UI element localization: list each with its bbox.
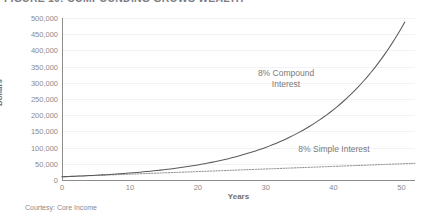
x-tick-label: 20 [194,183,202,192]
x-axis-title: Years [62,192,415,201]
x-tick-label: 10 [126,183,134,192]
annotation-compound-line2: Interest [238,79,334,90]
figure-credit: Courtesy: Core Income [25,204,97,211]
figure-container: FIGURE 10: COMPOUNDING GROWS WEALTH Doll… [0,0,425,218]
series-line-simple-interest [62,163,415,176]
x-tick-label: 0 [60,183,64,192]
x-tick-label: 30 [262,183,270,192]
x-tick-label: 50 [397,183,405,192]
annotation-compound-line1: 8% Compound [238,68,334,79]
annotation-simple-interest: 8% Simple Interest [280,144,388,155]
annotation-compound-interest: 8% Compound Interest [238,68,334,89]
x-tick-label: 40 [329,183,337,192]
